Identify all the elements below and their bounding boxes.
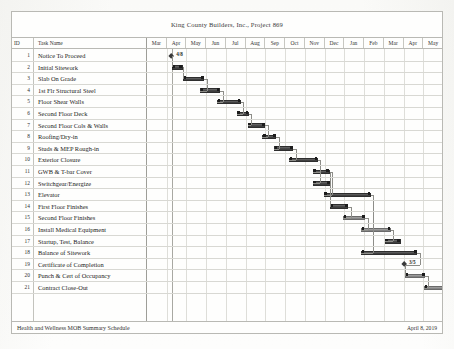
table-row[interactable]	[12, 282, 442, 294]
month-header-jul-4: Jul	[226, 38, 246, 48]
schedule-sheet: King County Builders, Inc., Project 869 …	[11, 11, 443, 334]
table-row[interactable]	[12, 131, 442, 143]
table-row[interactable]	[12, 259, 442, 271]
title-band: King County Builders, Inc., Project 869	[12, 12, 442, 38]
month-header-may-2: May	[186, 38, 206, 48]
table-row[interactable]	[12, 108, 442, 120]
month-header-mar-0: Mar	[147, 38, 167, 48]
table-row[interactable]	[12, 50, 442, 62]
table-row[interactable]	[12, 154, 442, 166]
month-header-sep-6: Sep	[265, 38, 285, 48]
table-row[interactable]	[12, 212, 442, 224]
column-header-row: ID Task Name MarAprMayJunJulAugSepOctNov…	[12, 38, 442, 49]
month-header-nov-8: Nov	[305, 38, 325, 48]
month-header-aug-5: Aug	[246, 38, 266, 48]
page-title: King County Builders, Inc., Project 869	[171, 21, 283, 28]
table-row[interactable]	[12, 143, 442, 155]
table-row[interactable]	[12, 85, 442, 97]
month-header-jun-3: Jun	[206, 38, 226, 48]
table-row[interactable]	[12, 178, 442, 190]
column-header-task-name: Task Name	[34, 38, 147, 48]
table-row[interactable]	[12, 166, 442, 178]
month-header-may-14: May	[423, 38, 443, 48]
month-header-oct-7: Oct	[285, 38, 305, 48]
gantt-chart-page: King County Builders, Inc., Project 869 …	[0, 0, 454, 349]
table-row[interactable]	[12, 201, 442, 213]
column-header-id: ID	[12, 38, 34, 48]
table-row[interactable]	[12, 247, 442, 259]
footer-schedule-name: Health and Wellness MOB Summary Schedule	[17, 325, 130, 331]
table-row[interactable]	[12, 224, 442, 236]
month-header-apr-1: Apr	[167, 38, 187, 48]
month-header-jan-10: Jan	[344, 38, 364, 48]
table-row[interactable]	[12, 62, 442, 74]
schedule-body: 123456789101112131415161718192021 Notice…	[12, 49, 442, 321]
table-row[interactable]	[12, 120, 442, 132]
table-row[interactable]	[12, 96, 442, 108]
month-header-apr-13: Apr	[404, 38, 424, 48]
month-header-mar-12: Mar	[384, 38, 404, 48]
table-row[interactable]	[12, 73, 442, 85]
month-header-feb-11: Feb	[364, 38, 384, 48]
footer-band: Health and Wellness MOB Summary Schedule…	[12, 321, 442, 334]
footer-date: April 8, 2019	[407, 325, 437, 331]
table-row[interactable]	[12, 189, 442, 201]
table-row[interactable]	[12, 236, 442, 248]
table-row[interactable]	[12, 270, 442, 282]
month-header-dec-9: Dec	[325, 38, 345, 48]
